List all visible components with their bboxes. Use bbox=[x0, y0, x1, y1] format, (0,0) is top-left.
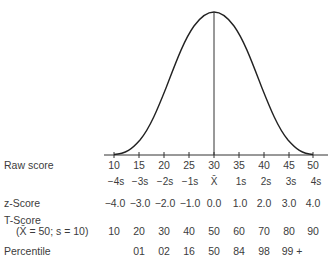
t-score-params-label: (X̄ = 50; s = 10) bbox=[16, 225, 88, 237]
percentile-cell: 02 bbox=[158, 245, 170, 257]
t-score-cell: 10 bbox=[108, 225, 120, 237]
t-score-cell: 60 bbox=[233, 225, 245, 237]
z-score-cell: 4.0 bbox=[306, 197, 321, 209]
z-score-cell: −2.0 bbox=[155, 197, 176, 209]
z-score-cell: 3.0 bbox=[282, 197, 297, 209]
raw-score-cell: 15 bbox=[133, 159, 145, 171]
z-score-cell: −4.0 bbox=[105, 197, 126, 209]
raw-score-cell: 35 bbox=[233, 159, 245, 171]
z-score-cell: −1.0 bbox=[180, 197, 201, 209]
sd-cell: −3s bbox=[132, 176, 148, 187]
raw-score-cell: 20 bbox=[158, 159, 170, 171]
raw-score-cell: 45 bbox=[283, 159, 295, 171]
sd-cell: 4s bbox=[311, 176, 322, 187]
z-score-cell: −3.0 bbox=[130, 197, 151, 209]
sd-cell: 2s bbox=[261, 176, 272, 187]
sd-cell: 1s bbox=[236, 176, 247, 187]
sd-cell: −4s bbox=[108, 176, 124, 187]
t-score-cell: 30 bbox=[158, 225, 170, 237]
raw-score-cell: 50 bbox=[307, 159, 319, 171]
percentile-cell: 16 bbox=[183, 245, 195, 257]
sd-cell: 3s bbox=[286, 176, 297, 187]
raw-score-cell: 30 bbox=[208, 159, 220, 171]
t-score-cell: 40 bbox=[183, 225, 195, 237]
percentile-label: Percentile bbox=[4, 245, 51, 257]
raw-score-label: Raw score bbox=[4, 159, 54, 171]
raw-score-cell: 10 bbox=[108, 159, 120, 171]
z-score-cell: 2.0 bbox=[257, 197, 272, 209]
t-score-cell: 80 bbox=[283, 225, 295, 237]
raw-score-cell: 25 bbox=[183, 159, 195, 171]
sd-cell: −2s bbox=[157, 176, 173, 187]
t-score-cell: 90 bbox=[307, 225, 319, 237]
sd-cell: −1s bbox=[182, 176, 198, 187]
t-score-cell: 50 bbox=[208, 225, 220, 237]
percentile-cell: 99 + bbox=[282, 245, 303, 257]
normal-curve-chart bbox=[0, 0, 333, 164]
z-score-cell: 0.0 bbox=[207, 197, 222, 209]
percentile-cell: 50 bbox=[208, 245, 220, 257]
percentile-cell: 01 bbox=[133, 245, 145, 257]
t-score-cell: 70 bbox=[258, 225, 270, 237]
sd-cell-mean: X̄ bbox=[211, 176, 218, 187]
t-score-cell: 20 bbox=[133, 225, 145, 237]
raw-score-cell: 40 bbox=[258, 159, 270, 171]
z-score-cell: 1.0 bbox=[233, 197, 248, 209]
z-score-label: z-Score bbox=[4, 197, 40, 209]
percentile-cell: 98 bbox=[258, 245, 270, 257]
percentile-cell: 84 bbox=[233, 245, 245, 257]
